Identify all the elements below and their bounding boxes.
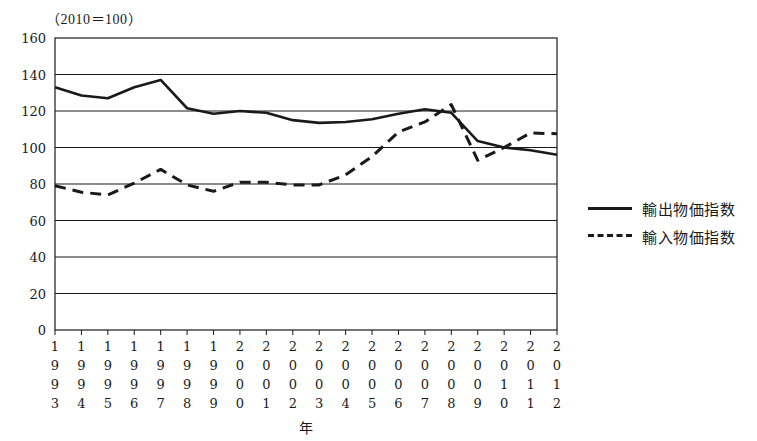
x-tick-label-digit: 0	[526, 358, 534, 373]
x-tick-label-digit: 0	[500, 396, 508, 411]
y-tick-label: 100	[21, 141, 46, 156]
legend-swatch-dashed-icon	[588, 229, 632, 243]
x-tick-label-digit: 9	[130, 377, 138, 392]
x-tick-label-digit: 9	[209, 358, 217, 373]
y-tick-label: 40	[29, 250, 46, 265]
series-line-export	[55, 80, 557, 155]
x-tick-label-digit: 2	[394, 339, 402, 354]
x-tick-label-digit: 2	[447, 339, 455, 354]
x-tick-label-digit: 5	[368, 396, 376, 411]
x-tick-label-digit: 2	[526, 339, 534, 354]
x-tick-label-digit: 9	[130, 358, 138, 373]
x-tick-label-digit: 1	[500, 377, 508, 392]
y-tick-label: 160	[21, 31, 46, 46]
x-tick-label-digit: 0	[262, 377, 270, 392]
x-tick-label-digit: 0	[474, 358, 482, 373]
x-tick-label-digit: 1	[104, 339, 112, 354]
x-tick-label-digit: 9	[474, 396, 482, 411]
x-tick-label-digit: 0	[421, 377, 429, 392]
y-tick-label: 120	[21, 104, 46, 119]
x-tick-label-digit: 9	[104, 377, 112, 392]
x-tick-label-digit: 0	[341, 377, 349, 392]
x-tick-label-digit: 2	[289, 339, 297, 354]
x-tick-label-digit: 8	[183, 396, 191, 411]
x-tick-label-digit: 9	[157, 358, 165, 373]
legend-label-export: 輸出物価指数	[642, 198, 735, 219]
x-tick-label-digit: 0	[236, 396, 244, 411]
x-tick-label-digit: 0	[553, 358, 561, 373]
x-tick-label-digit: 3	[51, 396, 59, 411]
x-tick-label-digit: 9	[209, 377, 217, 392]
x-tick-label-digit: 0	[368, 377, 376, 392]
x-tick-label-digit: 1	[130, 339, 138, 354]
x-tick-label-digit: 0	[289, 377, 297, 392]
y-tick-label: 140	[21, 68, 46, 83]
x-tick-label-digit: 1	[209, 339, 217, 354]
x-tick-label-digit: 0	[315, 377, 323, 392]
series-line-import	[55, 105, 557, 195]
x-tick-label-digit: 9	[77, 377, 85, 392]
legend-item-import: 輸入物価指数	[588, 222, 753, 250]
y-tick-label: 80	[29, 177, 46, 192]
x-tick-label-digit: 2	[236, 339, 244, 354]
price-index-chart: （2010＝100） 02040608010012014016019931994…	[0, 0, 757, 441]
x-tick-label-digit: 2	[368, 339, 376, 354]
x-tick-label-digit: 0	[500, 358, 508, 373]
x-tick-label-digit: 9	[183, 358, 191, 373]
x-tick-label-digit: 6	[394, 396, 402, 411]
x-axis-title: 年	[299, 420, 313, 436]
x-tick-label-digit: 1	[183, 339, 191, 354]
x-tick-label-digit: 0	[421, 358, 429, 373]
x-tick-label-digit: 0	[236, 358, 244, 373]
x-tick-label-digit: 9	[157, 377, 165, 392]
x-tick-label-digit: 9	[183, 377, 191, 392]
x-tick-label-digit: 1	[526, 396, 534, 411]
x-tick-label-digit: 0	[368, 358, 376, 373]
x-tick-label-digit: 4	[77, 396, 85, 411]
y-tick-label: 60	[29, 214, 46, 229]
x-tick-label-digit: 6	[130, 396, 138, 411]
x-tick-label-digit: 0	[447, 377, 455, 392]
x-tick-label-digit: 1	[77, 339, 85, 354]
x-tick-label-digit: 8	[447, 396, 455, 411]
x-tick-label-digit: 3	[315, 396, 323, 411]
x-tick-label-digit: 2	[553, 339, 561, 354]
x-tick-label-digit: 0	[262, 358, 270, 373]
x-tick-label-digit: 9	[77, 358, 85, 373]
x-tick-label-digit: 7	[157, 396, 165, 411]
x-tick-label-digit: 0	[236, 377, 244, 392]
legend-label-import: 輸入物価指数	[642, 226, 735, 247]
unit-note: （2010＝100）	[46, 8, 142, 28]
x-tick-label-digit: 2	[262, 339, 270, 354]
x-tick-label-digit: 9	[209, 396, 217, 411]
x-tick-label-digit: 9	[104, 358, 112, 373]
x-tick-label-digit: 5	[104, 396, 112, 411]
x-tick-label-digit: 9	[51, 377, 59, 392]
x-tick-label-digit: 2	[421, 339, 429, 354]
x-tick-label-digit: 2	[500, 339, 508, 354]
chart-legend: 輸出物価指数 輸入物価指数	[588, 194, 753, 250]
x-tick-label-digit: 2	[341, 339, 349, 354]
x-tick-label-digit: 7	[421, 396, 429, 411]
legend-item-export: 輸出物価指数	[588, 194, 753, 222]
x-tick-label-digit: 4	[341, 396, 349, 411]
x-tick-label-digit: 1	[262, 396, 270, 411]
y-tick-label: 20	[29, 287, 46, 302]
legend-swatch-solid-icon	[588, 201, 632, 215]
x-tick-label-digit: 0	[289, 358, 297, 373]
x-tick-label-digit: 0	[341, 358, 349, 373]
x-tick-label-digit: 0	[474, 377, 482, 392]
x-tick-label-digit: 0	[315, 358, 323, 373]
x-tick-label-digit: 0	[394, 377, 402, 392]
x-tick-label-digit: 1	[553, 377, 561, 392]
x-tick-label-digit: 1	[526, 377, 534, 392]
x-tick-label-digit: 9	[51, 358, 59, 373]
x-tick-label-digit: 2	[289, 396, 297, 411]
x-tick-label-digit: 0	[447, 358, 455, 373]
y-tick-label: 0	[38, 323, 46, 338]
x-tick-label-digit: 2	[315, 339, 323, 354]
x-tick-label-digit: 0	[394, 358, 402, 373]
x-tick-label-digit: 1	[51, 339, 59, 354]
x-tick-label-digit: 2	[474, 339, 482, 354]
x-tick-label-digit: 1	[157, 339, 165, 354]
